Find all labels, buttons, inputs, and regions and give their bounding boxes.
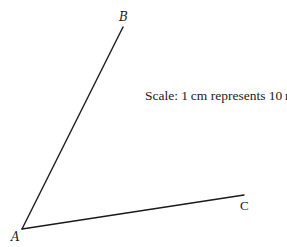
point-label-b: B [119, 11, 128, 23]
point-label-c: C [240, 199, 249, 212]
point-label-a: A [11, 231, 20, 243]
segment-ac [22, 195, 244, 229]
scale-note: Scale: 1 cm represents 10 m [145, 89, 287, 103]
segment-ab [22, 27, 123, 229]
